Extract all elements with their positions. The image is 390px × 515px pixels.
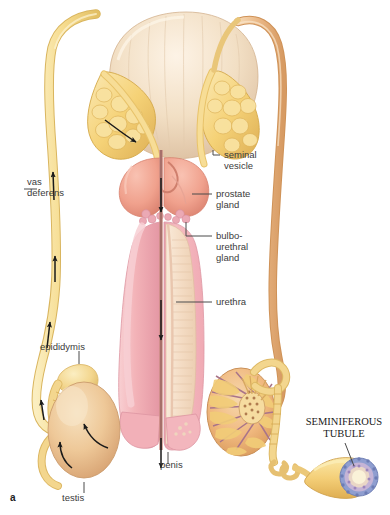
label-epididymis: epididymis	[40, 341, 85, 352]
label-testis: testis	[62, 492, 84, 503]
panel-letter: a	[10, 492, 16, 503]
label-seminal-vesicle: seminal vesicle	[224, 149, 257, 171]
label-bulbourethral-gland: bulbo- urethral gland	[216, 230, 248, 263]
label-seminiferous-tubule: SEMINIFEROUS TUBULE	[300, 416, 388, 440]
prostate-gland	[119, 158, 209, 217]
label-urethra: urethra	[216, 296, 246, 307]
label-penis: penis	[160, 459, 183, 470]
figure-male-reproductive-system: vas deferens seminal vesicle prostate gl…	[0, 0, 390, 515]
label-prostate-gland: prostate gland	[216, 188, 250, 210]
testis-left	[48, 382, 120, 478]
seminiferous-tubule-closeup	[305, 457, 378, 498]
testis-right-section	[207, 368, 276, 456]
label-vas-deferens: vas deferens	[27, 176, 64, 198]
